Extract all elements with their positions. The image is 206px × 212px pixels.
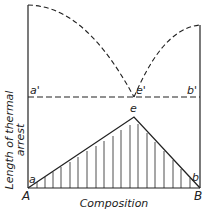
label-b: b <box>192 171 199 184</box>
label-B: B <box>194 189 202 203</box>
label-e-prime: e' <box>136 84 146 97</box>
label-a: a <box>29 173 36 186</box>
tammann-triangle <box>28 117 200 188</box>
label-a-prime: a' <box>30 84 40 97</box>
label-b-prime: b' <box>187 84 197 97</box>
triangle-hatching <box>37 124 190 188</box>
tammann-diagram: a' e' b' e a b A B Composition Length of… <box>0 0 206 212</box>
label-A: A <box>21 189 30 203</box>
label-e: e <box>130 102 137 115</box>
x-axis-label: Composition <box>80 197 149 210</box>
y-axis-label-line2: arrest <box>14 123 27 156</box>
liquidus-left <box>28 5 134 97</box>
